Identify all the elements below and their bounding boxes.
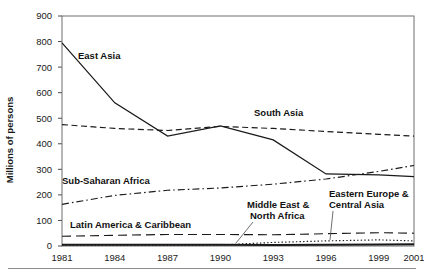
y-tick-label: 600 [36, 87, 52, 98]
y-tick-label: 300 [36, 164, 52, 175]
series-label: North Africa [250, 210, 305, 221]
series-label: Latin America & Caribbean [70, 219, 191, 230]
series-label: Middle East & [247, 199, 309, 210]
chart-svg: 0100200300400500600700800900 19811984198… [0, 0, 424, 276]
y-axis-title: Millions of persons [4, 97, 15, 184]
x-tick-label: 1999 [368, 252, 389, 263]
series-label: East Asia [78, 50, 121, 61]
y-tick-label: 900 [36, 10, 52, 21]
x-tick-label: 1990 [210, 252, 231, 263]
x-tick-label: 1987 [157, 252, 178, 263]
x-tick-label: 1993 [263, 252, 284, 263]
y-tick-label: 200 [36, 189, 52, 200]
x-tick-label: 2001 [403, 252, 424, 263]
series-label: Sub-Saharan Africa [62, 175, 151, 186]
y-tick-label: 400 [36, 138, 52, 149]
y-tick-label: 700 [36, 62, 52, 73]
line-chart: 0100200300400500600700800900 19811984198… [0, 0, 424, 276]
x-tick-label: 1996 [315, 252, 336, 263]
series-label: Central Asia [329, 199, 385, 210]
series-label: Eastern Europe & [329, 188, 409, 199]
x-tick-label: 1981 [51, 252, 72, 263]
y-tick-label: 100 [36, 215, 52, 226]
y-tick-label: 0 [47, 240, 52, 251]
x-tick-label: 1984 [104, 252, 125, 263]
series-label: South Asia [254, 107, 304, 118]
chart-background [0, 0, 424, 276]
y-tick-label: 500 [36, 113, 52, 124]
page-rule [8, 268, 416, 269]
series-line-middle-east-north-africa [62, 244, 414, 245]
y-tick-label: 800 [36, 36, 52, 47]
